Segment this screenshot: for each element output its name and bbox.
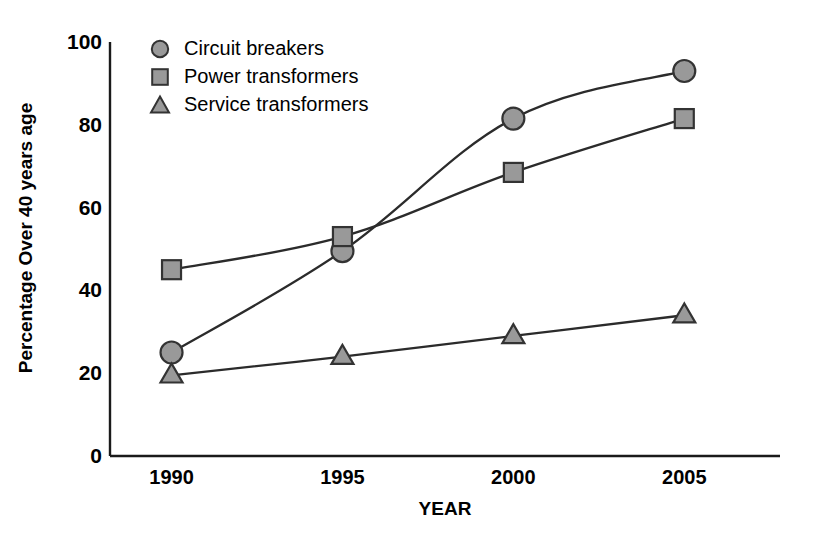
triangle-marker-icon xyxy=(151,96,169,112)
data-point-square xyxy=(675,109,694,128)
square-marker-icon xyxy=(152,69,168,85)
data-point-triangle xyxy=(502,324,524,343)
circle-marker-icon xyxy=(152,40,168,56)
series-line-square xyxy=(172,119,685,270)
series-line-triangle xyxy=(172,315,685,375)
data-point-circle xyxy=(161,342,183,364)
square-marker-icon xyxy=(148,66,172,88)
triangle-marker-icon xyxy=(148,94,172,116)
circle-marker-icon xyxy=(148,38,172,60)
legend-item[interactable]: Circuit breakers xyxy=(148,36,408,61)
data-point-triangle xyxy=(331,345,353,364)
data-point-square xyxy=(162,260,181,279)
x-tick-label: 1990 xyxy=(149,466,194,489)
x-tick-label: 2005 xyxy=(662,466,707,489)
x-tick-label: 2000 xyxy=(491,466,536,489)
legend-item-label: Power transformers xyxy=(184,65,359,88)
data-point-circle xyxy=(673,60,695,82)
data-point-square xyxy=(333,227,352,246)
plot-area xyxy=(0,0,817,544)
data-point-square xyxy=(504,163,523,182)
legend-item-label: Circuit breakers xyxy=(184,37,324,60)
chart-figure: Percentage Over 40 years age 02040608010… xyxy=(0,0,817,544)
data-point-triangle xyxy=(161,363,183,382)
legend-item[interactable]: Power transformers xyxy=(148,64,408,89)
data-point-triangle xyxy=(673,303,695,322)
chart-legend: Circuit breakersPower transformersServic… xyxy=(148,36,408,120)
legend-item[interactable]: Service transformers xyxy=(148,92,408,117)
legend-item-label: Service transformers xyxy=(184,93,369,116)
data-point-circle xyxy=(502,108,524,130)
x-tick-label: 1995 xyxy=(320,466,365,489)
